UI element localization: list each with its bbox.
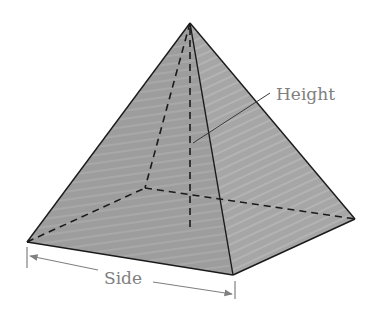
side-arrow-left — [30, 256, 98, 270]
side-arrow-right — [153, 282, 232, 294]
height-label: Height — [276, 84, 335, 104]
pyramid-diagram: Height Side — [0, 0, 376, 313]
side-label: Side — [104, 268, 142, 288]
